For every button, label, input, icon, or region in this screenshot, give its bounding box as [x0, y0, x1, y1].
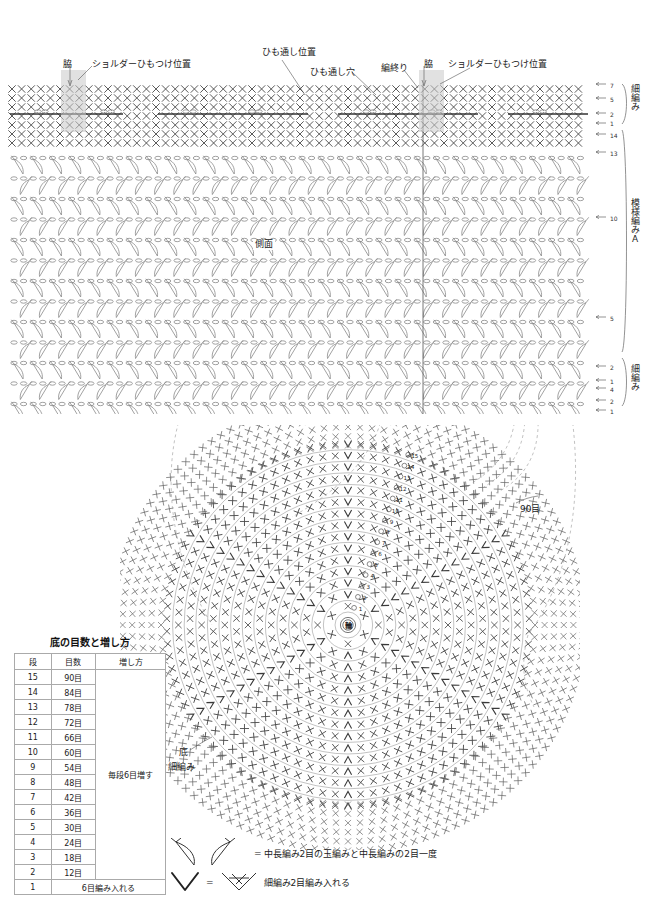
row-number: 7	[610, 82, 614, 89]
legend-text-two-sc: 細編み2目編み入れる	[264, 876, 351, 889]
row-number: 1	[610, 120, 614, 127]
svg-text:9: 9	[390, 519, 394, 525]
table-cell-row-number: 7	[15, 790, 52, 805]
label-side-left: 脇	[63, 60, 72, 70]
table-header-count: 目数	[51, 654, 95, 670]
side-shade-left	[61, 70, 86, 132]
symbol-legend: = 中長編み2目の玉編みと中長編みの2目一度 = 細編み2目編み入れる	[168, 838, 568, 904]
table-cell-stitch-count: 42目	[51, 790, 95, 805]
table-cell-row-number: 8	[15, 775, 52, 790]
table-cell-row-number: 4	[15, 835, 52, 850]
svg-text:5: 5	[374, 562, 378, 568]
table-cell-stitch-count: 30目	[51, 820, 95, 835]
label-shoulder-strap-left: ショルダーひもつけ位置	[92, 60, 191, 70]
table-cell-stitch-count: 18目	[51, 850, 95, 865]
label-knit-end: 編終り	[381, 64, 408, 74]
svg-text:7: 7	[382, 540, 386, 546]
body-chart-svg	[8, 84, 591, 414]
row-legend-brackets	[592, 78, 664, 418]
table-cell-row-number: 13	[15, 700, 52, 715]
table-cell-row-number: 5	[15, 820, 52, 835]
row-number: 2	[610, 398, 614, 405]
row-legend-label-top: 細編み	[630, 84, 639, 111]
svg-text:8: 8	[386, 529, 390, 535]
table-cell-stitch-count: 54目	[51, 760, 95, 775]
bottom-label-leader	[190, 737, 212, 750]
row-number: 2	[610, 111, 614, 118]
body-stitch-chart	[8, 84, 591, 414]
svg-text:13: 13	[403, 475, 411, 481]
row-legend-label-bottom: 細編み	[630, 364, 639, 391]
label-bottom: 底	[179, 748, 188, 758]
label-cord-hole: ひも通し穴	[310, 68, 355, 78]
svg-text:1: 1	[359, 606, 363, 612]
increase-table: 段 目数 増し方 1590目毎段6目増す1484目1378目1272目1166目…	[14, 653, 166, 895]
table-row: 1590目毎段6目増す	[15, 670, 166, 685]
table-cell-row-number: 10	[15, 745, 52, 760]
label-side-right: 脇	[424, 60, 433, 70]
row-number: 5	[610, 96, 614, 103]
svg-text:3: 3	[367, 584, 371, 590]
row-number: 2	[610, 364, 614, 371]
row-number: 10	[610, 215, 618, 222]
table-cell-increase-method: 毎段6目増す	[96, 670, 166, 880]
pattern-sheet: 脇 ショルダーひもつけ位置 ひも通し位置 ひも通し穴 編終り 脇 ショルダーひも…	[0, 0, 667, 918]
table-cell-stitch-count: 24目	[51, 835, 95, 850]
legend-equals-two-sc: =	[206, 877, 214, 887]
legend-entry-cluster: = 中長編み2目の玉編みと中長編みの2目一度	[168, 838, 437, 868]
base-count-table: 底の目数と増し方 段 目数 増し方 1590目毎段6目増す1484目1378目1…	[14, 634, 166, 895]
legend-entry-two-sc: = 細編み2目編み入れる	[168, 870, 350, 894]
label-stitch-count-90: 90目	[520, 505, 540, 515]
svg-text:11: 11	[396, 497, 404, 503]
table-cell-row-number: 1	[15, 880, 52, 895]
row-number: 5	[610, 315, 614, 322]
bracket-pattern	[622, 130, 627, 352]
table-cell-stitch-count: 84目	[51, 685, 95, 700]
table-cell-row-number: 2	[15, 865, 52, 880]
svg-text:15: 15	[411, 453, 419, 459]
table-cell-stitch-count: 90目	[51, 670, 95, 685]
legend-equals-cluster: =	[254, 848, 262, 858]
table-cell-stitch-count: 36目	[51, 805, 95, 820]
svg-text:4: 4	[370, 573, 374, 579]
label-side-face: 側面	[253, 240, 275, 250]
table-cell-row-number: 15	[15, 670, 52, 685]
svg-text:輪: 輪	[345, 621, 353, 630]
bracket-bottom	[622, 358, 627, 406]
label-bottom-single-crochet: 細編み	[168, 763, 195, 773]
svg-text:2: 2	[363, 595, 367, 601]
table-header-row: 段 目数 増し方	[15, 654, 166, 670]
two-sc-in-one-icon	[218, 870, 260, 894]
row-number: 14	[610, 132, 618, 139]
table-cell-stitch-count: 78目	[51, 700, 95, 715]
table-header-increase: 増し方	[96, 654, 166, 670]
table-cell-stitch-count: 48目	[51, 775, 95, 790]
table-cell-row-number: 3	[15, 850, 52, 865]
v-stitch-icon	[168, 870, 202, 894]
table-header-row-num: 段	[15, 654, 52, 670]
table-cell-first-row-note: 6目編み入れる	[51, 880, 165, 895]
row-number: 13	[610, 150, 618, 157]
row-legend-label-pattern: 模様編みA	[630, 198, 639, 244]
table-cell-row-number: 11	[15, 730, 52, 745]
svg-text:10: 10	[392, 508, 400, 514]
table-cell-stitch-count: 66目	[51, 730, 95, 745]
base-chart-svg: 123456789101112131415輪	[120, 425, 580, 850]
svg-text:14: 14	[407, 464, 415, 470]
table-row: 16目編み入れる	[15, 880, 166, 895]
table-cell-row-number: 12	[15, 715, 52, 730]
half-double-cluster-icon	[168, 838, 258, 868]
base-stitch-chart: 123456789101112131415輪	[120, 425, 580, 850]
label-cord-position: ひも通し位置	[262, 48, 316, 58]
bracket-top	[622, 84, 627, 124]
row-number: 1	[610, 378, 614, 385]
table-cell-row-number: 14	[15, 685, 52, 700]
table-cell-stitch-count: 72目	[51, 715, 95, 730]
legend-text-cluster: 中長編み2目の玉編みと中長編みの2目一度	[264, 847, 437, 860]
table-cell-row-number: 6	[15, 805, 52, 820]
side-shade-right	[419, 70, 444, 132]
row-number: 1	[610, 408, 614, 415]
row-number: 4	[610, 386, 614, 393]
svg-text:6: 6	[378, 551, 382, 557]
label-shoulder-strap-right: ショルダーひもつけ位置	[448, 60, 547, 70]
